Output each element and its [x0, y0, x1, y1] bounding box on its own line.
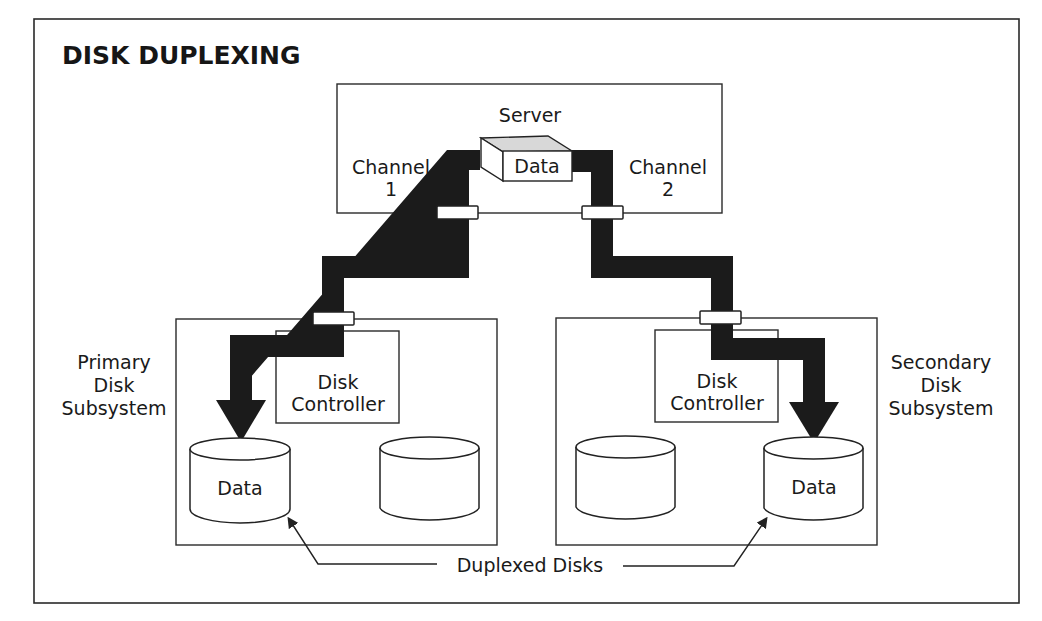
primary-connector [313, 312, 354, 325]
primary-controller-label-line1: Disk [318, 371, 359, 393]
secondary-subsystem-label-line2: Disk [921, 374, 962, 396]
secondary-controller-label-line2: Controller [670, 392, 764, 414]
primary-disk-label: Data [217, 477, 262, 499]
secondary-connector [700, 311, 741, 324]
server-data-label: Data [514, 155, 559, 177]
server-channel-1-connector [437, 206, 478, 219]
duplexed-disks-callout: Duplexed Disks [457, 554, 604, 576]
channel-1-label-line2: 1 [385, 178, 397, 200]
server-label: Server [499, 104, 561, 126]
secondary-disk-label: Data [791, 476, 836, 498]
primary-empty-disk [380, 437, 479, 520]
channel-2-label-line2: 2 [662, 178, 674, 200]
secondary-data-disk: Data [764, 437, 863, 520]
primary-data-disk: Data [190, 438, 290, 523]
secondary-empty-disk [576, 436, 675, 519]
primary-subsystem-label-line3: Subsystem [62, 397, 167, 419]
secondary-subsystem-label-line1: Secondary [891, 351, 992, 373]
primary-subsystem-label-line2: Disk [94, 374, 135, 396]
channel-1-label-line1: Channel [352, 156, 430, 178]
diagram-title: DISK DUPLEXING [62, 41, 301, 70]
disk-duplexing-diagram: DISK DUPLEXING Server Channel 1 Channel … [0, 0, 1042, 621]
secondary-controller-label-line1: Disk [697, 370, 738, 392]
primary-subsystem-label-line1: Primary [77, 351, 150, 373]
channel-2-label-line1: Channel [629, 156, 707, 178]
server-channel-2-connector [582, 206, 623, 219]
primary-controller-label-line2: Controller [291, 393, 385, 415]
secondary-subsystem-label-line3: Subsystem [889, 397, 994, 419]
server-data-block: Data [481, 136, 572, 181]
